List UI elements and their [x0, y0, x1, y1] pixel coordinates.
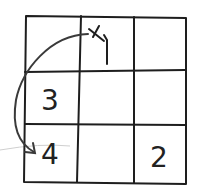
grid-diagram: 3 4 2 [0, 0, 201, 196]
cell-r2c1-label: 3 [41, 84, 59, 117]
grid-line-h1 [25, 70, 185, 72]
cell-r3c1-label: 4 [41, 138, 59, 171]
x-mark [89, 26, 107, 64]
cell-r3c3-label: 2 [150, 141, 168, 174]
grid-line-v1 [77, 16, 81, 182]
grid-line-h2 [25, 124, 185, 125]
